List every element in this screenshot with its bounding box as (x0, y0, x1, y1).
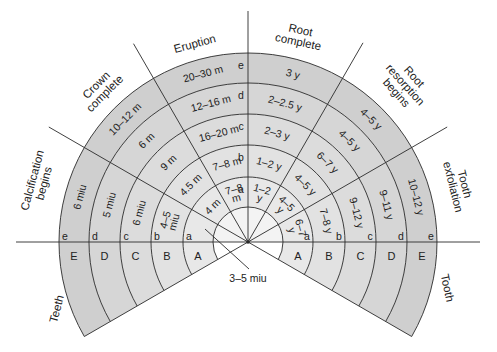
stage-label-root: Rootcomplete (274, 19, 325, 52)
tooth-letter-left-A: A (194, 250, 202, 262)
stage-label-resorption: Rootresorptionbegins (375, 54, 436, 116)
tooth-letter-right-B: B (325, 250, 332, 262)
tooth-letter-left-D: D (101, 250, 109, 262)
stage-label-eruption: Eruption (173, 32, 217, 55)
tooth-letter-right-E: E (418, 250, 425, 262)
tooth-letter-right-D: D (388, 250, 396, 262)
ring-letter-left-c: c (123, 230, 128, 242)
ring-letter-left-a: a (186, 230, 192, 242)
ring-letter-right-d: d (398, 230, 404, 242)
tooth-letter-right-C: C (357, 250, 365, 262)
ring-letter-right-a: a (304, 230, 310, 242)
tooth-letter-left-E: E (70, 250, 77, 262)
ring-letter-right-c: c (367, 230, 372, 242)
ring-letter-left-b: b (154, 230, 160, 242)
ring-letter-vertical-e: e (238, 59, 244, 71)
ring-letter-right-e: e (428, 230, 434, 242)
tooth-development-diagram: 4–5miu6 miu5 miu6 miu4 m4.5 m9 m6 m10–12… (0, 0, 497, 352)
ring-letter-left-d: d (92, 230, 98, 242)
ring-letter-vertical-d: d (238, 89, 244, 101)
tooth-label: Tooth (439, 273, 457, 303)
stage-label-calcification: Calcificationbegins (18, 149, 57, 215)
teeth-label: Teeth (47, 294, 66, 324)
tooth-letter-left-C: C (132, 250, 140, 262)
pointer-label-3-5-miu: 3–5 miu (229, 272, 267, 284)
ring-letter-vertical-b: b (238, 151, 244, 163)
ring-letter-left-e: e (62, 230, 68, 242)
ring-letter-right-b: b (336, 230, 342, 242)
stage-label-exfoliation: Toothexfoliation (441, 157, 477, 213)
ring-letter-vertical-c: c (238, 120, 243, 132)
center-dot (246, 240, 250, 244)
ring-letter-vertical-a: a (238, 183, 244, 195)
tooth-letter-right-A: A (294, 250, 302, 262)
tooth-letter-left-B: B (163, 250, 170, 262)
